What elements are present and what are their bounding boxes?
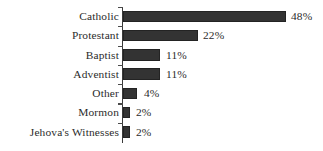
category-label: Protestant (72, 27, 119, 43)
bar-value-label: 11% (166, 66, 187, 82)
bar (123, 30, 198, 41)
category-label: Other (92, 85, 119, 101)
bar-value-label: 11% (166, 47, 187, 63)
bar-row: Catholic 48% (0, 7, 323, 26)
category-label: Jehova's Witnesses (30, 124, 119, 140)
category-label: Baptist (86, 47, 119, 63)
bar-row: Adventist 11% (0, 65, 323, 84)
category-label: Catholic (79, 8, 119, 24)
bar-value-label: 4% (144, 85, 159, 101)
bar-chart: Catholic 48% Protestant 22% Baptist 11% (0, 0, 323, 151)
bar-row: Mormon 2% (0, 103, 323, 122)
bar (123, 68, 160, 79)
category-label: Mormon (78, 104, 119, 120)
bar-row: Other 4% (0, 84, 323, 103)
bar (123, 126, 130, 137)
bar-row: Jehova's Witnesses 2% (0, 123, 323, 142)
plot-area: Catholic 48% Protestant 22% Baptist 11% (0, 0, 323, 151)
bar-value-label: 2% (136, 104, 151, 120)
bar-rows: Catholic 48% Protestant 22% Baptist 11% (0, 7, 323, 142)
bar (123, 49, 160, 60)
bar-value-label: 22% (203, 27, 224, 43)
bar-row: Protestant 22% (0, 26, 323, 45)
bar (123, 88, 137, 99)
bar-value-label: 2% (136, 124, 151, 140)
bar-value-label: 48% (291, 8, 312, 24)
category-label: Adventist (73, 66, 119, 82)
bar (123, 11, 286, 22)
bar-row: Baptist 11% (0, 46, 323, 65)
bar (123, 107, 130, 118)
